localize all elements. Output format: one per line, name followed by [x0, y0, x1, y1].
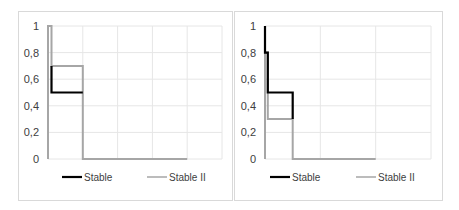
y-tick-label: 0,2 — [241, 126, 256, 138]
y-tick-label: 1 — [250, 20, 256, 32]
y-tick-label: 0,8 — [241, 47, 256, 59]
y-tick-label: 0,2 — [24, 126, 39, 138]
chart-right-svg: 00,20,40,60,81StableStable II — [235, 12, 444, 202]
legend-label-stable-ii: Stable II — [169, 172, 206, 183]
legend-label-stable-ii: Stable II — [378, 172, 415, 183]
y-tick-label: 0 — [33, 153, 39, 165]
chart-right: 00,20,40,60,81StableStable II — [234, 11, 443, 201]
y-tick-label: 0 — [250, 153, 256, 165]
series-line-stable — [265, 26, 293, 119]
chart-left: 00,20,40,60,81StableStable II — [18, 11, 233, 201]
chart-left-svg: 00,20,40,60,81StableStable II — [19, 12, 234, 202]
legend-label-stable: Stable — [84, 172, 113, 183]
legend-label-stable: Stable — [292, 172, 321, 183]
y-tick-label: 0,8 — [24, 47, 39, 59]
y-tick-label: 0,6 — [241, 73, 256, 85]
y-tick-label: 0,4 — [24, 100, 39, 112]
y-tick-label: 0,4 — [241, 100, 256, 112]
y-tick-label: 1 — [33, 20, 39, 32]
y-tick-label: 0,6 — [24, 73, 39, 85]
